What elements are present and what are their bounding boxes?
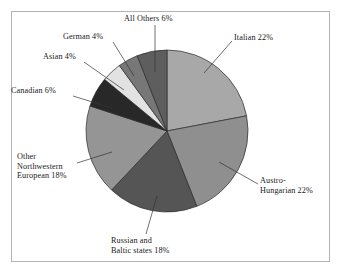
slice-label-other-northwestern-european: OtherNorthwesternEuropean 18% bbox=[17, 152, 67, 181]
label-text-line: Baltic states 18% bbox=[111, 246, 170, 256]
slice-label-asian: Asian 4% bbox=[43, 52, 76, 62]
slice-label-italian: Italian 22% bbox=[234, 33, 273, 43]
label-text-line: Russian and bbox=[111, 236, 170, 246]
pie-slices-group bbox=[86, 50, 248, 212]
slice-label-russian-baltic: Russian andBaltic states 18% bbox=[111, 236, 170, 255]
label-text-line: Italian 22% bbox=[234, 33, 273, 43]
label-text-line: Asian 4% bbox=[43, 52, 76, 62]
label-text-line: Canadian 6% bbox=[11, 86, 56, 96]
slice-label-all-others: All Others 6% bbox=[124, 14, 173, 24]
slice-label-austro-hungarian: Austro-Hungarian 22% bbox=[260, 176, 313, 195]
label-text-line: German 4% bbox=[63, 32, 103, 42]
pie-chart-canvas bbox=[0, 0, 343, 275]
label-text-line: Other bbox=[17, 152, 67, 162]
pie-chart-figure: Italian 22% Austro-Hungarian 22% Russian… bbox=[0, 0, 343, 275]
label-text-line: All Others 6% bbox=[124, 14, 173, 24]
label-text-line: Northwestern bbox=[17, 162, 67, 172]
label-text-line: Hungarian 22% bbox=[260, 186, 313, 196]
label-text-line: Austro- bbox=[260, 176, 313, 186]
label-text-line: European 18% bbox=[17, 171, 67, 181]
slice-label-canadian: Canadian 6% bbox=[11, 86, 56, 96]
slice-label-german: German 4% bbox=[63, 32, 103, 42]
